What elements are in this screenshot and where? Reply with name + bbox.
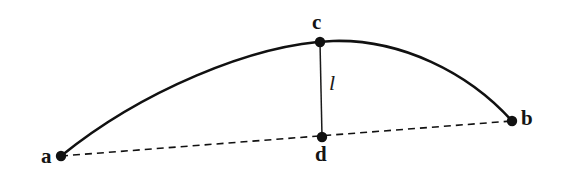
point-b-dot xyxy=(507,116,517,126)
diagram-canvas xyxy=(0,0,565,177)
point-c-dot xyxy=(315,37,325,47)
arc-sagitta-diagram: a b c d l xyxy=(0,0,565,177)
point-b-label: b xyxy=(521,108,533,129)
point-a-label: a xyxy=(41,146,52,167)
point-c-label: c xyxy=(312,12,321,33)
point-d-label: d xyxy=(315,144,327,165)
sagitta-length-label: l xyxy=(329,72,335,94)
diagram-background xyxy=(0,0,565,177)
point-a-dot xyxy=(56,151,66,161)
point-d-dot xyxy=(317,132,327,142)
